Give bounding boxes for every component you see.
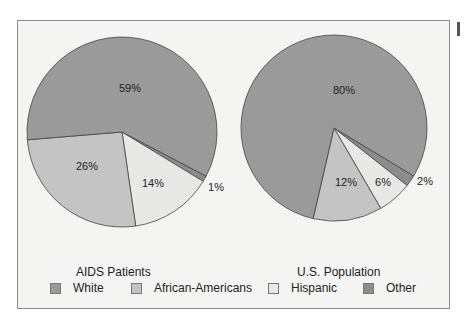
slice-value-label: 12%	[335, 176, 357, 188]
swatch-hispanic	[268, 283, 279, 294]
swatch-african-americans	[131, 283, 142, 294]
slice-value-label: 59%	[119, 82, 141, 94]
legend-item-african-americans: African-Americans	[131, 281, 252, 295]
legend-label: Hispanic	[291, 281, 337, 295]
pie-title-us-population: U.S. Population	[297, 265, 380, 279]
slice-value-label: 2%	[417, 175, 433, 187]
slice-value-label: 14%	[142, 177, 164, 189]
legend-label: White	[73, 281, 104, 295]
swatch-white	[50, 283, 61, 294]
legend-label: African-Americans	[154, 281, 252, 295]
pie-us-population: 80%12%6%2%	[241, 35, 433, 221]
pie-slice-african-americans	[27, 132, 135, 227]
slice-value-label: 80%	[333, 84, 355, 96]
swatch-other	[363, 283, 374, 294]
legend-item-hispanic: Hispanic	[268, 281, 337, 295]
slice-value-label: 1%	[208, 181, 224, 193]
slice-value-label: 6%	[375, 176, 391, 188]
legend-item-white: White	[50, 281, 104, 295]
pie-charts: 59%26%14%1% 80%12%6%2%	[0, 0, 467, 320]
pie-aids-patients: 59%26%14%1%	[27, 37, 224, 227]
pie-title-aids-patients: AIDS Patients	[76, 265, 151, 279]
legend-label: Other	[386, 281, 416, 295]
legend-item-other: Other	[363, 281, 416, 295]
slice-value-label: 26%	[76, 160, 98, 172]
legend: White African-Americans Hispanic Other	[50, 281, 450, 297]
